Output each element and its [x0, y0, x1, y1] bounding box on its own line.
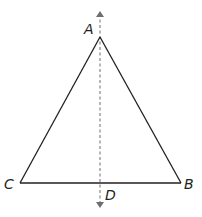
label-a: A [83, 21, 94, 37]
label-c: C [4, 176, 14, 192]
triangle-diagram: A C B D [0, 0, 202, 217]
side-ac [20, 37, 100, 183]
side-ab [100, 37, 181, 183]
label-d: D [105, 187, 116, 203]
label-b: B [184, 176, 194, 192]
